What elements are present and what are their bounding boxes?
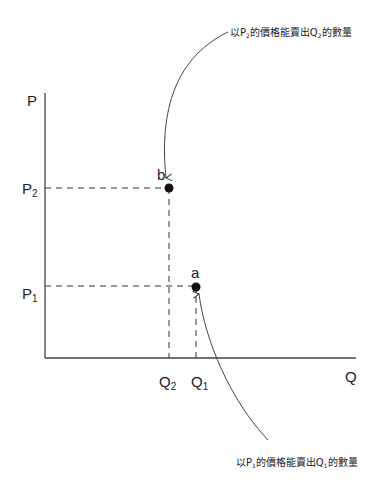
point-a [192,283,201,292]
point-b-label: b [157,166,165,183]
x-axis-label: Q [345,368,357,385]
p2-label: P2 [22,180,38,199]
point-a-label: a [191,264,200,281]
top-annotation: 以P2的價格能賣出Q2的數量 [230,26,352,39]
y-axis-label: P [27,92,37,109]
bottom-annotation: 以P1的價格能賣出Q1的數量 [236,456,358,469]
bottom-annotation-arrow [199,294,268,440]
q1-label: Q1 [191,373,209,392]
point-b [165,184,174,193]
p1-label: P1 [22,285,38,304]
diagram-canvas: P Q P2 P1 Q2 Q1 b a 以P2的價格能賣出Q2的數量 以P1的價… [0,0,389,489]
top-annotation-arrow [164,32,228,178]
q2-label: Q2 [159,373,177,392]
